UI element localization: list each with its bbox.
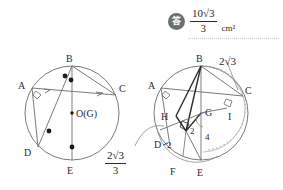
measure-hd: 2 <box>167 140 172 150</box>
measure-dg: 2 <box>190 126 195 136</box>
left-label-e: E <box>67 165 73 176</box>
left-label-center: O(G) <box>76 108 97 120</box>
left-dot-3 <box>47 129 52 134</box>
answer-badge-icon: 答 <box>168 13 185 30</box>
left-label-a: A <box>18 80 26 91</box>
right-label-h: H <box>161 111 168 122</box>
measure-ge: 4 <box>205 132 210 142</box>
answer-block: 答 10√3 3 cm² <box>168 8 235 34</box>
left-label-b: B <box>66 53 73 64</box>
right-segment-ac <box>161 88 243 96</box>
left-dot-4 <box>70 145 75 150</box>
right-label-i: I <box>228 111 231 122</box>
right-label-g: G <box>205 107 212 118</box>
right-angle-arc-g-icon <box>196 118 203 127</box>
right-right-angle-mark-i-icon <box>224 99 232 107</box>
left-arrow-ac-1-icon <box>44 89 50 93</box>
left-dot-2 <box>69 78 74 83</box>
label-bc-length: 2√3 <box>219 55 236 67</box>
right-label-f: F <box>170 166 176 177</box>
left-segment-bd <box>38 66 72 147</box>
right-label-c: C <box>245 85 252 96</box>
left-label-d: D <box>24 147 31 158</box>
right-circle-figure: B A C H G I D F E 2 2 4 <box>135 53 252 178</box>
answer-fraction: 10√3 3 <box>190 8 217 34</box>
right-right-angle-mark-a-icon <box>162 91 170 99</box>
right-segment-bh <box>176 66 201 116</box>
left-label-c: C <box>119 83 126 94</box>
left-center-dot <box>70 111 73 114</box>
left-right-angle-mark-a-icon <box>33 91 41 99</box>
left-dot-1 <box>63 74 68 79</box>
answer-denominator: 3 <box>199 23 209 35</box>
right-label-d: D <box>154 139 161 150</box>
answer-numerator: 10√3 <box>190 8 217 20</box>
left-segment-bc <box>72 66 116 95</box>
callout-numerator: 2√3 <box>105 150 126 162</box>
answer-unit: cm² <box>222 23 236 34</box>
diagram-canvas: 答 10√3 3 cm² 2√3 2√3 3 <box>0 0 283 190</box>
right-label-e: E <box>197 167 203 178</box>
geometry-figures: B A C D E O(G) <box>0 0 283 190</box>
answer-underline <box>188 38 280 39</box>
right-label-a: A <box>148 80 156 91</box>
callout-fraction: 2√3 3 <box>105 150 126 176</box>
right-segment-fd <box>183 131 186 156</box>
right-label-b: B <box>196 53 203 64</box>
callout-denominator: 3 <box>111 165 121 177</box>
